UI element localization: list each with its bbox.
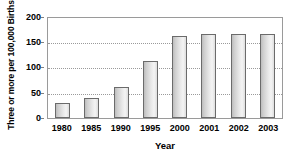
x-tick-label-1980: 1980	[47, 122, 77, 136]
x-tick-label-1995: 1995	[136, 122, 166, 136]
x-axis-tick-labels: 1980 1985 1990 1995 2000 2001 2002 2003	[47, 122, 283, 136]
bar-slot-1985	[77, 18, 106, 118]
y-tick-label-100: 100	[26, 63, 41, 72]
bars-layer	[48, 18, 282, 118]
bar-2002	[231, 34, 246, 118]
x-axis-title: Year	[47, 140, 283, 152]
bar-1985	[84, 98, 99, 118]
x-tick-label-2001: 2001	[195, 122, 225, 136]
bar-2001	[201, 34, 216, 118]
x-tick-label-2003: 2003	[254, 122, 284, 136]
bar-slot-1990	[107, 18, 136, 118]
y-tick-mark-150	[41, 42, 44, 43]
bar-slot-1995	[136, 18, 165, 118]
y-tick-mark-50	[41, 93, 44, 94]
x-tick-label-1990: 1990	[106, 122, 136, 136]
x-tick-label-2002: 2002	[224, 122, 254, 136]
y-tick-label-50: 50	[31, 89, 41, 98]
x-tick-label-2000: 2000	[165, 122, 195, 136]
y-tick-mark-100	[41, 67, 44, 68]
y-tick-label-150: 150	[26, 38, 41, 47]
bar-slot-2000	[165, 18, 194, 118]
bar-2000	[172, 36, 187, 118]
bar-1990	[114, 87, 129, 118]
y-axis-title-text: Three or more per 100,000 Births	[6, 0, 16, 130]
bar-2003	[260, 34, 275, 118]
bar-slot-2003	[253, 18, 282, 118]
y-tick-label-200: 200	[26, 13, 41, 22]
plot-area	[47, 17, 283, 119]
bar-slot-1980	[48, 18, 77, 118]
bar-chart: Three or more per 100,000 Births 200 150…	[0, 0, 290, 168]
y-axis-tick-labels: 200 150 100 50 0	[20, 17, 44, 119]
bar-1980	[55, 103, 70, 118]
y-tick-mark-0	[41, 118, 44, 119]
bar-slot-2002	[224, 18, 253, 118]
bar-1995	[143, 61, 158, 118]
x-tick-label-1985: 1985	[77, 122, 107, 136]
y-tick-mark-200	[41, 17, 44, 18]
y-axis-title: Three or more per 100,000 Births	[0, 0, 22, 130]
bar-slot-2001	[194, 18, 223, 118]
